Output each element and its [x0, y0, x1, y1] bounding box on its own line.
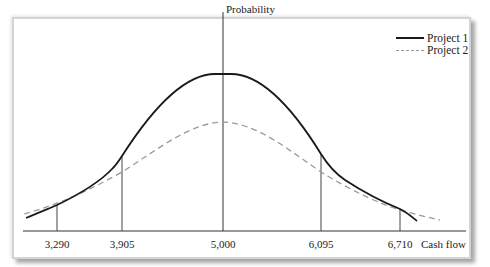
x-tick-label: 6,710 [388, 238, 413, 250]
legend-label: Project 1 [427, 32, 468, 44]
solid-line-icon [396, 37, 424, 39]
x-tick-label: 5,000 [211, 238, 236, 250]
dashed-line-icon [396, 50, 424, 51]
legend-label: Project 2 [427, 44, 468, 56]
legend-item-project-2: Project 2 [396, 44, 468, 56]
series-project-1-curve [26, 74, 417, 221]
x-axis-label: Cash flow [421, 238, 466, 250]
series-project-2-curve [24, 122, 440, 220]
x-tick-label: 3,905 [110, 238, 135, 250]
x-tick-label: 3,290 [45, 238, 70, 250]
legend-item-project-1: Project 1 [396, 32, 468, 44]
y-axis-label: Probability [226, 3, 275, 15]
x-tick-label: 6,095 [309, 238, 334, 250]
